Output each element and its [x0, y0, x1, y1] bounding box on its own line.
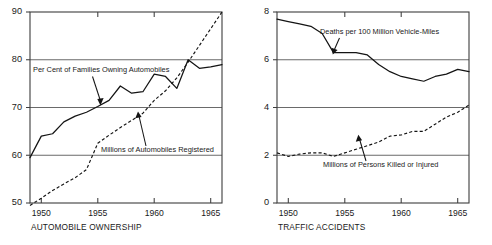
y-tick-label-70: 70 [12, 102, 22, 112]
y-tick-label-90: 90 [12, 6, 22, 16]
x-tick-label-1955: 1955 [335, 208, 354, 218]
y-tick-labels-group: 90 80 70 60 50 [12, 6, 22, 207]
x-tick-labels-group: 1950 1955 1960 1965 [32, 208, 221, 218]
gridlines-group [30, 60, 222, 156]
x-tick-label-1955: 1955 [88, 208, 107, 218]
gridlines-group [277, 60, 469, 156]
annotation-leader-millions-registered [139, 116, 146, 146]
x-tick-label-1950: 1950 [279, 208, 298, 218]
annotation-millions-registered: Millions of Automobiles Registered [101, 112, 214, 155]
annotation-per-cent-families: Per Cent of Families Owning Automobiles [33, 65, 170, 106]
x-tick-labels-group: 1950 1955 1960 1965 [279, 208, 468, 218]
y-tick-label-50: 50 [12, 197, 22, 207]
y-tick-label-2: 2 [264, 150, 269, 160]
annotation-arrowhead-millions-registered [135, 112, 141, 119]
annotation-deaths-per-100m: Deaths per 100 Million Vehicle-Miles [320, 27, 439, 55]
annotation-label-per-cent-families: Per Cent of Families Owning Automobiles [33, 65, 170, 74]
x-tick-label-1965: 1965 [448, 208, 467, 218]
y-tickmarks-group [273, 12, 277, 203]
chart-panel-automobile-ownership: 90 80 70 60 50 1950 1955 1960 1965 Per C… [0, 0, 246, 245]
x-tick-label-1950: 1950 [32, 208, 51, 218]
x-tick-label-1965: 1965 [201, 208, 220, 218]
x-tick-label-1960: 1960 [392, 208, 411, 218]
traffic-accidents-plot: 8 6 4 2 0 1950 1955 1960 1965 Deaths per… [246, 0, 492, 245]
y-tick-label-80: 80 [12, 54, 22, 64]
series-line-millions-of-automobiles-registered [30, 12, 222, 205]
annotation-millions-killed-injured: Millions of Persons Killed or Injured [323, 135, 438, 169]
y-tick-label-8: 8 [264, 6, 269, 16]
chart-panel-traffic-accidents: 8 6 4 2 0 1950 1955 1960 1965 Deaths per… [246, 0, 492, 245]
annotation-leader-per-cent-families [93, 77, 101, 102]
y-tickmarks-group [26, 12, 30, 203]
annotation-label-deaths-per-100m: Deaths per 100 Million Vehicle-Miles [320, 27, 439, 36]
x-tick-label-1960: 1960 [145, 208, 164, 218]
automobile-ownership-plot: 90 80 70 60 50 1950 1955 1960 1965 Per C… [0, 0, 246, 245]
y-tick-label-4: 4 [264, 102, 269, 112]
figure-two-panel-line-charts: 90 80 70 60 50 1950 1955 1960 1965 Per C… [0, 0, 492, 245]
y-tick-labels-group: 8 6 4 2 0 [264, 6, 269, 207]
annotation-arrowhead-millions-killed-injured [356, 135, 362, 142]
series-line-per-cent-families-owning-automobiles [30, 60, 222, 158]
annotation-label-millions-registered: Millions of Automobiles Registered [101, 145, 214, 154]
series-line-millions-of-persons-killed-or-injured [277, 105, 469, 156]
annotation-leader-millions-killed-injured [360, 139, 367, 161]
annotation-label-millions-killed-injured: Millions of Persons Killed or Injured [323, 160, 438, 169]
y-tick-label-0: 0 [264, 197, 269, 207]
y-tick-label-60: 60 [12, 150, 22, 160]
annotation-leader-deaths-per-100m [334, 38, 340, 51]
y-tick-label-6: 6 [264, 54, 269, 64]
